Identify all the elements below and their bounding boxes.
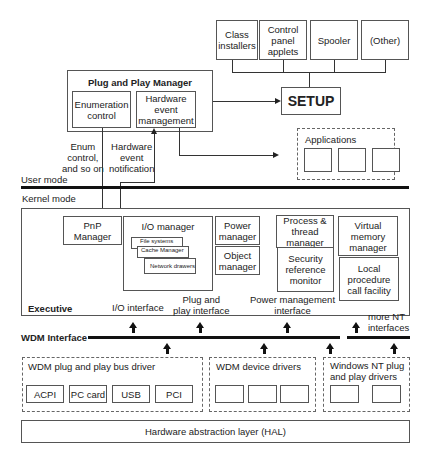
connector xyxy=(232,60,233,72)
arrow-stem xyxy=(355,328,358,333)
executive-label: Executive xyxy=(28,303,72,314)
more-nt-interfaces-label: more NT interfaces xyxy=(368,311,409,333)
pnp-manager-title: Plug and Play Manager xyxy=(68,77,212,88)
device-driver-box xyxy=(215,385,244,403)
pnp-manager-box: PnP Manager xyxy=(63,216,122,245)
virtual-memory-manager-box: Virtual memory manager xyxy=(338,216,398,256)
device-driver-box xyxy=(248,385,277,403)
hw-to-apps-line xyxy=(179,155,273,156)
other-box: (Other) xyxy=(361,20,409,60)
cache-manager-box: Cache Manager xyxy=(137,246,189,258)
pc-card-box: PC card xyxy=(69,385,107,403)
arrow-stem xyxy=(199,328,202,333)
application-box xyxy=(338,148,366,172)
connector xyxy=(309,72,310,87)
nt-interface-line xyxy=(347,336,410,339)
enumeration-control-box: Enumeration control xyxy=(72,91,131,128)
wdm-bus-driver-label: WDM plug and play bus driver xyxy=(28,361,155,372)
wdm-interface-label: WDM Interface xyxy=(21,332,87,343)
setup-box: SETUP xyxy=(281,87,341,115)
connector xyxy=(334,60,335,72)
nt-pnp-drivers-label: Windows NT plug and play drivers xyxy=(330,360,404,382)
connector xyxy=(283,60,284,72)
arrow-stem xyxy=(132,328,135,333)
io-interface-label: I/O interface xyxy=(112,302,164,313)
nt-driver-box xyxy=(330,385,359,403)
hw-event-notification-line xyxy=(154,134,155,182)
pnp-to-setup-line xyxy=(213,101,275,102)
arrow-up-icon xyxy=(151,128,157,134)
device-driver-box xyxy=(280,385,309,403)
arrow-stem xyxy=(393,349,396,354)
arrow-stem xyxy=(329,349,332,354)
nt-driver-box xyxy=(372,385,401,403)
security-reference-monitor-box: Security reference monitor xyxy=(277,247,334,292)
connector xyxy=(179,128,180,155)
enum-control-line xyxy=(102,128,103,208)
pnp-interface-label: Plug and play interface xyxy=(173,294,230,316)
arrow-right-icon xyxy=(275,98,281,104)
arrow-stem xyxy=(263,349,266,354)
hal-box: Hardware abstraction layer (HAL) xyxy=(21,420,410,443)
kernel-mode-label: Kernel mode xyxy=(22,193,76,204)
spooler-box: Spooler xyxy=(310,20,358,60)
arrow-right-icon xyxy=(273,152,279,158)
connector xyxy=(120,182,155,183)
wdm-device-drivers-label: WDM device drivers xyxy=(216,361,301,372)
power-management-interface-label: Power management interface xyxy=(250,294,335,316)
hardware-event-management-box: Hardware event management xyxy=(136,91,196,128)
arrow-stem xyxy=(166,349,169,354)
network-drivers-box: Network drawers xyxy=(144,258,196,274)
usb-box: USB xyxy=(112,385,150,403)
hardware-event-notification-label: Hardware event notification xyxy=(109,141,154,174)
power-manager-box: Power manager xyxy=(215,216,260,245)
wdm-interface-line xyxy=(88,336,340,339)
user-mode-label: User mode xyxy=(21,174,67,185)
control-panel-applets-box: Control panel applets xyxy=(259,20,307,60)
applications-label: Applications xyxy=(305,134,356,145)
acpi-box: ACPI xyxy=(26,385,64,403)
application-box xyxy=(372,148,400,172)
pci-box: PCI xyxy=(155,385,193,403)
connector xyxy=(385,60,386,72)
process-thread-manager-box: Process & thread manager xyxy=(276,215,334,248)
class-installers-box: Class installers xyxy=(216,20,258,60)
io-manager-title: I/O manager xyxy=(124,221,212,232)
arrow-stem xyxy=(286,328,289,333)
user-kernel-boundary xyxy=(21,186,409,189)
application-box xyxy=(304,148,332,172)
lpc-facility-box: Local procedure call facility xyxy=(339,257,399,301)
object-manager-box: Object manager xyxy=(215,246,260,275)
enum-control-label: Enum control, and so on xyxy=(62,141,104,174)
